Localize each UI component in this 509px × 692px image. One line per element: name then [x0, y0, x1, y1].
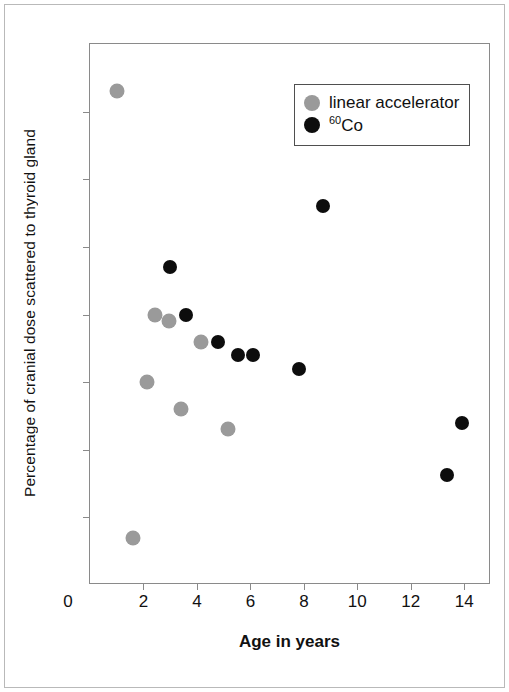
y-axis-tick [83, 315, 90, 316]
y-axis-title: Percentage of cranial dose scattered to … [18, 43, 42, 584]
data-point [173, 402, 188, 417]
x-axis-title: Age in years [89, 632, 490, 652]
x-axis-tick [197, 583, 198, 590]
x-axis-tick-label: 8 [284, 592, 324, 612]
legend-label-co60-superscript: 60 [329, 114, 341, 126]
data-point [161, 314, 176, 329]
data-point [179, 308, 193, 322]
y-axis-title-text: Percentage of cranial dose scattered to … [21, 129, 39, 497]
y-axis-tick [83, 382, 90, 383]
data-point [193, 334, 208, 349]
data-point [211, 335, 225, 349]
data-point [316, 199, 330, 213]
x-axis-tick [143, 583, 144, 590]
data-point [125, 530, 140, 545]
x-axis-tick-label: 6 [230, 592, 270, 612]
x-axis-tick [250, 583, 251, 590]
x-axis-tick [464, 583, 465, 590]
y-axis-tick [83, 517, 90, 518]
y-axis-tick [83, 112, 90, 113]
data-point [163, 260, 177, 274]
x-axis-tick [357, 583, 358, 590]
legend-label-co60: 60Co [329, 114, 363, 136]
legend-label-co60-base: Co [341, 116, 363, 135]
legend-marker-co60-icon [304, 117, 320, 133]
x-axis-tick [304, 583, 305, 590]
x-axis-tick-label: 4 [177, 592, 217, 612]
x-axis-tick-label: 0 [48, 592, 88, 612]
data-point [231, 348, 245, 362]
y-axis-tick [83, 247, 90, 248]
data-point [109, 84, 124, 99]
chart-legend: linear accelerator 60Co [294, 84, 470, 146]
y-axis-tick [83, 450, 90, 451]
x-axis-tick-label: 12 [391, 592, 431, 612]
legend-item-linear-accelerator: linear accelerator [304, 93, 460, 113]
scatter-plot-figure: Percentage of cranial dose scattered to … [0, 0, 509, 692]
data-point [440, 468, 454, 482]
y-axis-tick [83, 179, 90, 180]
legend-marker-linear-accelerator-icon [304, 95, 320, 111]
legend-item-co60: 60Co [304, 114, 460, 136]
data-point [292, 362, 306, 376]
x-axis-tick-label: 14 [444, 592, 484, 612]
data-point [246, 348, 260, 362]
x-axis-tick [411, 583, 412, 590]
data-point [220, 422, 235, 437]
x-axis-tick-label: 10 [337, 592, 377, 612]
legend-label-linear-accelerator: linear accelerator [329, 93, 459, 113]
data-point [140, 375, 155, 390]
x-axis-tick-label: 2 [123, 592, 163, 612]
data-point [455, 416, 469, 430]
